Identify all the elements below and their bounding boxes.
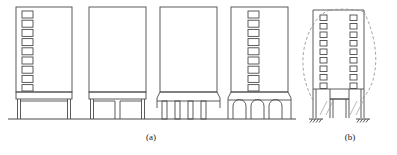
caption-b: (b) bbox=[330, 132, 370, 142]
building-3-flared-columns bbox=[153, 7, 224, 119]
soft-story-shear-hatch bbox=[320, 101, 363, 115]
building-4-right-flare bbox=[288, 92, 291, 100]
building-3-body bbox=[160, 7, 217, 92]
building-4-left-flare bbox=[228, 92, 231, 100]
panel-b-windows-right-column bbox=[350, 15, 357, 89]
building-3-right-flare bbox=[217, 92, 220, 101]
building-2-podium bbox=[89, 92, 146, 99]
deflection-curve-right bbox=[360, 12, 376, 101]
building-3-columns bbox=[162, 101, 206, 119]
building-4-arcade bbox=[228, 100, 291, 119]
caption-a: (a) bbox=[131, 132, 171, 142]
building-2-two-openings bbox=[82, 7, 153, 119]
fixed-support-left bbox=[309, 119, 323, 123]
building-1-body bbox=[16, 7, 72, 92]
building-1-podium bbox=[16, 92, 72, 99]
figure-container: (a) (b) bbox=[0, 0, 397, 155]
panel-b-windows-left-column bbox=[320, 15, 327, 89]
building-1-windows bbox=[22, 11, 33, 91]
building-2-body bbox=[89, 7, 146, 92]
building-4-arched-columns bbox=[224, 7, 296, 119]
deflection-curves bbox=[303, 9, 376, 101]
building-4-body bbox=[231, 7, 288, 92]
building-1-open-front bbox=[8, 7, 82, 119]
deformed-building-outline bbox=[313, 10, 364, 89]
fixed-support-right bbox=[356, 119, 370, 123]
building-3-left-flare bbox=[157, 92, 160, 101]
building-4-windows bbox=[248, 11, 259, 91]
